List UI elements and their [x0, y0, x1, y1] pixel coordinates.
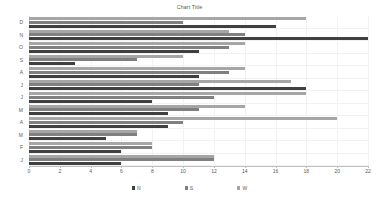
x-axis-tick [214, 166, 215, 168]
gridline [368, 16, 369, 166]
bar-group [29, 29, 368, 42]
chart-legend: NSW [0, 183, 379, 193]
bar-s[interactable] [29, 133, 137, 136]
bar-s[interactable] [29, 108, 199, 111]
bar-group [29, 141, 368, 154]
x-axis-tick [29, 166, 30, 168]
bar-w[interactable] [29, 17, 306, 20]
y-axis-tick-label: D [19, 19, 23, 25]
x-axis-tick-label: 8 [151, 168, 154, 175]
bar-s[interactable] [29, 121, 183, 124]
y-axis-tick-label: J [21, 94, 24, 100]
x-axis-tick [121, 166, 122, 168]
bar-group [29, 116, 368, 129]
x-axis-tick [306, 166, 307, 168]
bar-s[interactable] [29, 146, 152, 149]
y-axis-labels: DNOSAJJMAMFJ [0, 16, 27, 166]
x-axis-tick-label: 4 [89, 168, 92, 175]
x-axis-tick [91, 166, 92, 168]
bar-w[interactable] [29, 92, 306, 95]
bar-s[interactable] [29, 46, 229, 49]
x-axis-tick [245, 166, 246, 168]
bar-w[interactable] [29, 55, 183, 58]
x-axis-tick-label: 10 [180, 168, 186, 175]
x-axis-tick-label: 6 [120, 168, 123, 175]
y-axis-tick-label: S [20, 57, 23, 63]
y-axis-tick-label: N [19, 32, 23, 38]
legend-swatch-icon [185, 186, 188, 189]
plot-area [29, 16, 368, 166]
bar-s[interactable] [29, 96, 214, 99]
bar-w[interactable] [29, 105, 245, 108]
y-axis-tick-label: J [21, 157, 24, 163]
bar-s[interactable] [29, 33, 245, 36]
bar-group [29, 104, 368, 117]
bar-group [29, 154, 368, 167]
x-axis-tick-label: 2 [58, 168, 61, 175]
bar-s[interactable] [29, 158, 214, 161]
bar-group [29, 91, 368, 104]
y-axis-tick-label: J [21, 82, 24, 88]
legend-item-w[interactable]: W [237, 185, 247, 191]
y-axis-tick-label: A [20, 69, 23, 75]
x-axis-tick [368, 166, 369, 168]
y-axis-tick-label: M [19, 107, 23, 113]
legend-swatch-icon [237, 186, 240, 189]
x-axis-labels: 0246810121416182022 [29, 168, 368, 178]
legend-item-n[interactable]: N [132, 185, 141, 191]
x-axis-tick-label: 12 [211, 168, 217, 175]
bar-chart: Chart Title DNOSAJJMAMFJ 024681012141618… [0, 0, 379, 200]
row-baseline [29, 165, 368, 166]
bar-w[interactable] [29, 80, 291, 83]
x-axis-tick-label: 22 [365, 168, 371, 175]
legend-label: S [190, 185, 193, 191]
legend-label: N [137, 185, 141, 191]
bar-w[interactable] [29, 67, 245, 70]
x-axis-line [29, 166, 368, 167]
legend-item-s[interactable]: S [185, 185, 194, 191]
x-axis-tick [152, 166, 153, 168]
bar-group [29, 54, 368, 67]
legend-label: W [242, 185, 247, 191]
bar-s[interactable] [29, 71, 229, 74]
bar-s[interactable] [29, 58, 137, 61]
y-axis-tick-label: O [19, 44, 23, 50]
y-axis-tick-label: A [20, 119, 23, 125]
x-axis-tick-label: 20 [334, 168, 340, 175]
x-axis-tick [337, 166, 338, 168]
bar-w[interactable] [29, 155, 214, 158]
bar-group [29, 41, 368, 54]
y-axis-tick-label: F [20, 144, 23, 150]
x-axis-tick-label: 16 [273, 168, 279, 175]
x-axis-tick [183, 166, 184, 168]
bar-s[interactable] [29, 21, 183, 24]
x-axis-tick-label: 0 [28, 168, 31, 175]
bar-w[interactable] [29, 30, 229, 33]
x-axis-tick [276, 166, 277, 168]
legend-swatch-icon [132, 186, 135, 189]
bar-w[interactable] [29, 142, 152, 145]
bar-group [29, 66, 368, 79]
bar-w[interactable] [29, 42, 245, 45]
x-axis-tick [60, 166, 61, 168]
y-axis-tick-label: M [19, 132, 23, 138]
bar-w[interactable] [29, 117, 337, 120]
bar-group [29, 79, 368, 92]
chart-title: Chart Title [0, 3, 379, 11]
bar-w[interactable] [29, 130, 137, 133]
bar-s[interactable] [29, 83, 199, 86]
x-axis-tick-label: 18 [304, 168, 310, 175]
bar-group [29, 16, 368, 29]
x-axis-tick-label: 14 [242, 168, 248, 175]
bar-group [29, 129, 368, 142]
